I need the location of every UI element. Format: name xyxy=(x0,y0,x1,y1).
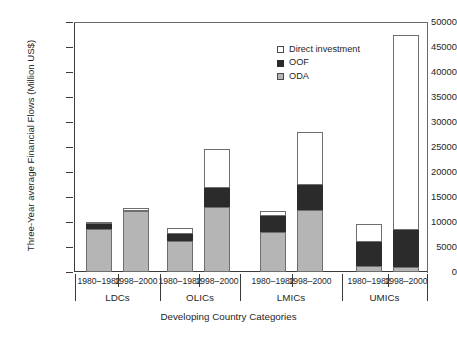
bar-segment-oda xyxy=(393,267,419,273)
y-axis-tick xyxy=(66,22,73,23)
x-axis-cell-separator xyxy=(342,274,343,287)
stacked-bar xyxy=(204,22,230,272)
y-axis-tick xyxy=(66,272,73,273)
x-axis-cell-separator xyxy=(427,274,428,287)
x-axis-group-separator xyxy=(75,287,76,301)
x-axis-group-separator xyxy=(342,287,343,301)
legend-label-oda: ODA xyxy=(289,72,309,81)
x-axis-group-label: UMICs xyxy=(342,293,427,303)
plot-frame-right xyxy=(427,22,428,273)
bar-segment-direct-investment xyxy=(356,224,382,242)
bar-segment-oda xyxy=(123,211,149,272)
stacked-bar-chart: Three-Year average Financial Flows (Mill… xyxy=(0,0,457,339)
x-axis-cell-separator xyxy=(75,274,76,287)
y-axis-tick xyxy=(66,97,73,98)
bar-segment-oof xyxy=(260,216,286,233)
stacked-bar xyxy=(123,22,149,272)
bar-segment-oda xyxy=(260,232,286,272)
x-axis-group-label: LDCs xyxy=(75,293,160,303)
legend-item-direct-investment: Direct investment xyxy=(277,44,360,55)
y-axis-tick xyxy=(66,72,73,73)
bar-segment-direct-investment xyxy=(393,35,419,230)
x-axis-period-label: 1998–2000 xyxy=(373,277,439,286)
legend-item-oda: ODA xyxy=(277,71,360,82)
x-axis-group-label: OLICs xyxy=(160,293,240,303)
bar-segment-direct-investment xyxy=(86,222,112,224)
y-axis-tick xyxy=(66,197,73,198)
stacked-bar xyxy=(393,22,419,272)
stacked-bar xyxy=(167,22,193,272)
x-axis-cell-separator xyxy=(118,274,119,287)
bar-segment-oda xyxy=(204,207,230,272)
x-axis-period-label: 1998–2000 xyxy=(277,277,343,286)
bar-segment-oda xyxy=(86,229,112,273)
y-axis-tick xyxy=(66,247,73,248)
x-axis-cell-separator xyxy=(240,274,241,287)
y-axis-tick xyxy=(66,222,73,223)
legend-item-oof: OOF xyxy=(277,58,360,69)
bar-segment-oda xyxy=(297,210,323,273)
x-axis-group-label: LMICs xyxy=(240,293,342,303)
legend-swatch-oof xyxy=(277,60,284,67)
bar-segment-direct-investment xyxy=(167,228,193,234)
bar-segment-oda xyxy=(167,241,193,272)
legend-label-oof: OOF xyxy=(289,58,309,67)
bar-segment-direct-investment xyxy=(123,208,149,212)
bar-segment-oof xyxy=(297,185,323,210)
bar-segment-oof xyxy=(167,234,193,242)
x-axis-cell-separator xyxy=(292,274,293,287)
stacked-bar xyxy=(86,22,112,272)
x-axis-group-separator xyxy=(427,287,428,301)
x-axis-title: Developing Country Categories xyxy=(0,311,457,322)
x-axis-cell-separator xyxy=(388,274,389,287)
bar-segment-oof xyxy=(356,242,382,266)
x-axis-cell-separator xyxy=(160,274,161,287)
bar-segment-oof xyxy=(393,230,419,267)
bar-segment-oof xyxy=(204,188,230,207)
legend-swatch-direct-investment xyxy=(277,46,284,53)
bar-segment-direct-investment xyxy=(204,149,230,189)
bar-segment-direct-investment xyxy=(260,211,286,216)
x-axis-group-separator xyxy=(240,287,241,301)
y-axis-title: Three-Year average Financial Flows (Mill… xyxy=(25,21,36,271)
bar-segment-direct-investment xyxy=(297,132,323,185)
legend-label-direct-investment: Direct investment xyxy=(289,45,360,54)
bar-segment-oof xyxy=(86,224,112,229)
y-axis-tick xyxy=(66,122,73,123)
y-axis-tick xyxy=(66,147,73,148)
legend: Direct investment OOF ODA xyxy=(277,44,360,85)
x-axis-group-separator xyxy=(160,287,161,301)
bar-segment-oda xyxy=(356,266,382,272)
x-axis-cell-separator xyxy=(199,274,200,287)
y-axis-tick xyxy=(66,172,73,173)
y-axis-tick xyxy=(66,47,73,48)
legend-swatch-oda xyxy=(277,73,284,80)
